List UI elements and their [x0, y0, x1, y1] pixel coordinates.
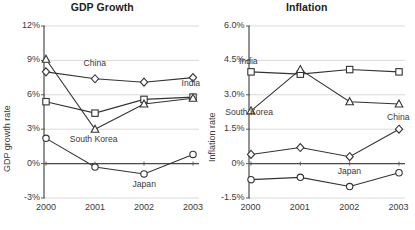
x-axis-tick-label: 2001 — [280, 202, 320, 212]
y-axis-tick-label: -3% — [6, 192, 40, 202]
data-point-triangle — [345, 98, 353, 105]
series-label-south-korea: South Korea — [225, 107, 273, 117]
data-point-circle — [190, 151, 196, 157]
series-label-china: China — [84, 58, 106, 68]
series-line-south-korea — [46, 59, 193, 129]
y-axis-tick-label: 3% — [6, 123, 40, 133]
series-line-india — [251, 70, 399, 75]
chart-svg — [44, 26, 199, 198]
plot-area-gdp-growth — [44, 26, 199, 198]
y-axis-tick-label: 6.0% — [211, 20, 245, 30]
series-line-china — [251, 129, 399, 157]
y-axis-tick-label: 0% — [211, 158, 245, 168]
x-axis-tick-label: 2000 — [26, 202, 66, 212]
y-axis-tick-label: 0% — [6, 158, 40, 168]
data-point-square — [43, 98, 49, 104]
data-point-diamond — [140, 78, 147, 86]
x-axis-tick-label: 2000 — [231, 202, 271, 212]
y-axis-tick-label: 3.0% — [211, 89, 245, 99]
series-label-japan: Japan — [338, 166, 361, 176]
series-label-china: China — [387, 112, 409, 122]
series-line-japan — [46, 138, 193, 174]
data-point-square — [346, 66, 352, 72]
data-point-circle — [141, 171, 147, 177]
series-line-india — [46, 97, 193, 113]
data-point-circle — [92, 164, 98, 170]
data-point-circle — [247, 176, 253, 182]
series-line-china — [46, 72, 193, 82]
y-axis-tick-label: 12% — [6, 20, 40, 30]
chart-title-gdp-growth: GDP Growth — [0, 1, 205, 13]
series-label-south-korea: South Korea — [70, 134, 118, 144]
x-axis-tick-label: 2001 — [75, 202, 115, 212]
y-axis-tick-label: 6% — [6, 89, 40, 99]
y-axis-tick-label: -1.5% — [211, 192, 245, 202]
series-label-india: India — [182, 78, 201, 88]
y-axis-label-inflation: Inflation rate — [207, 112, 217, 162]
series-line-south-korea — [251, 70, 399, 111]
data-point-diamond — [395, 125, 402, 133]
data-point-square — [247, 69, 253, 75]
chart-panel-gdp-growth: GDP Growth GDP growth rate -3%0%3%6%9%12… — [0, 0, 205, 230]
x-axis-tick-label: 2002 — [124, 202, 164, 212]
data-point-diamond — [91, 75, 98, 83]
data-point-circle — [395, 170, 401, 176]
data-point-diamond — [296, 144, 303, 152]
chart-panel-inflation: Inflation Inflation rate -1.5%0%1.5%3.0%… — [205, 0, 410, 230]
series-line-japan — [251, 173, 399, 187]
data-point-circle — [297, 174, 303, 180]
series-label-india: India — [239, 56, 258, 66]
x-axis-tick-label: 2002 — [329, 202, 369, 212]
data-point-triangle — [296, 66, 304, 73]
data-point-diamond — [346, 153, 353, 161]
y-axis-tick-label: 1.5% — [211, 123, 245, 133]
data-point-square — [92, 110, 98, 116]
data-point-circle — [43, 135, 49, 141]
series-label-japan: Japan — [133, 179, 156, 189]
data-point-square — [395, 69, 401, 75]
x-axis-tick-label: 2003 — [379, 202, 415, 212]
y-axis-tick-label: 9% — [6, 54, 40, 64]
chart-title-inflation: Inflation — [205, 1, 410, 13]
data-point-triangle — [42, 55, 50, 62]
data-point-circle — [346, 183, 352, 189]
